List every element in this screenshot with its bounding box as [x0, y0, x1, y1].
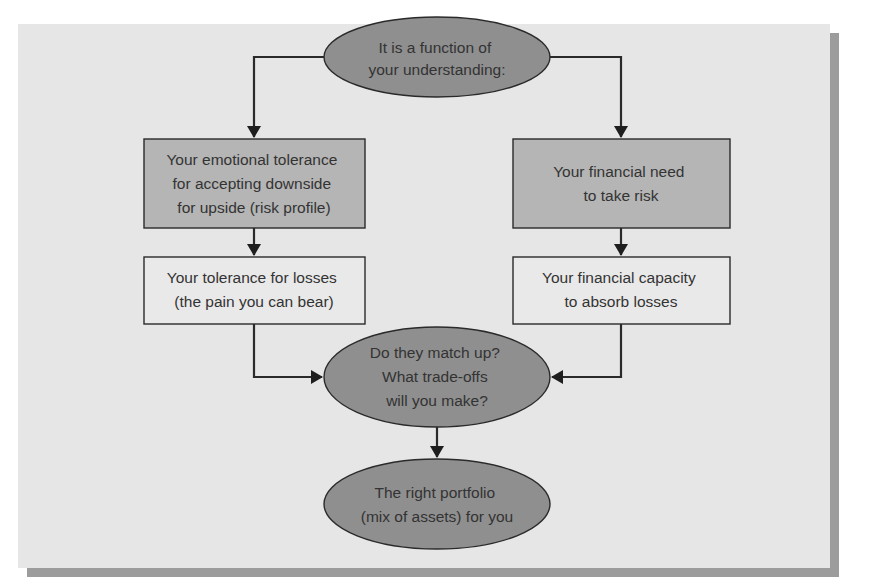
node-match-up: Do they match up? What trade-offs will y… [324, 327, 550, 427]
svg-text:Do they match up? What: Do they match up? What trade-offs will y… [370, 344, 504, 409]
node-top-line-1: It is a function of [378, 39, 492, 56]
edge-financial-capacity-to-match-up [552, 324, 621, 377]
node-emotional-tolerance-line-2: for accepting downside [173, 175, 332, 192]
node-match-up-line-3: will you make? [385, 392, 488, 409]
ellipse-shape [324, 459, 550, 549]
edge-top-to-financial-need [550, 57, 621, 137]
node-financial-need-line-2: to take risk [584, 187, 659, 204]
node-top-line-2: your understanding: [368, 61, 505, 78]
node-financial-need-line-1: Your financial need [553, 163, 684, 180]
node-match-up-line-1: Do they match up? [370, 344, 500, 361]
flowchart: It is a function of your understanding: … [0, 0, 885, 584]
node-financial-capacity-line-1: Your financial capacity [542, 269, 696, 286]
node-right-portfolio-line-1: The right portfolio [375, 484, 496, 501]
node-emotional-tolerance-line-3: for upside (risk profile) [177, 199, 330, 216]
node-right-portfolio: The right portfolio (mix of assets) for … [324, 459, 550, 549]
edge-top-to-emotional-tolerance [254, 57, 324, 137]
box-shape [144, 257, 365, 324]
node-top: It is a function of your understanding: [324, 17, 550, 97]
node-emotional-tolerance-line-1: Your emotional tolerance [166, 151, 337, 168]
node-financial-capacity-line-2: to absorb losses [565, 293, 678, 310]
box-shape [513, 139, 730, 228]
node-financial-need: Your financial need to take risk [513, 139, 730, 228]
node-match-up-line-2: What trade-offs [382, 368, 488, 385]
svg-text:Your emotional tolerance: Your emotional tolerance for accepting d… [166, 151, 341, 216]
node-emotional-tolerance: Your emotional tolerance for accepting d… [144, 139, 365, 228]
node-loss-tolerance-line-2: (the pain you can bear) [174, 293, 333, 310]
node-financial-capacity: Your financial capacity to absorb losses [513, 257, 730, 324]
node-right-portfolio-line-2: (mix of assets) for you [361, 508, 513, 525]
edge-loss-tolerance-to-match-up [254, 324, 322, 377]
diagram-stage: It is a function of your understanding: … [0, 0, 885, 584]
node-loss-tolerance: Your tolerance for losses (the pain you … [144, 257, 365, 324]
node-loss-tolerance-line-1: Your tolerance for losses [167, 269, 337, 286]
box-shape [513, 257, 730, 324]
ellipse-shape [324, 17, 550, 97]
